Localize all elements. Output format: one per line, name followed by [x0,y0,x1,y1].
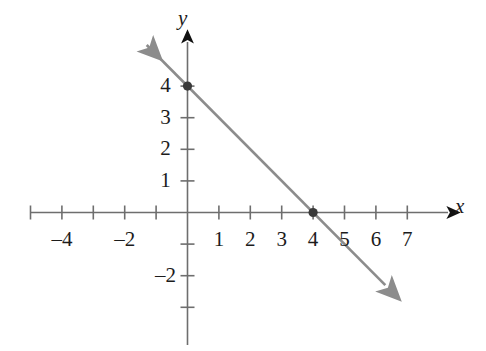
y-tick-label: 3 [160,107,171,128]
x-tick-label: 5 [339,229,350,250]
y-tick-label: 4 [160,75,171,96]
x-tick-label: –2 [114,229,135,250]
x-tick-label: 2 [245,229,256,250]
x-tick-label: 3 [276,229,287,250]
coordinate-plane-figure: –4–21234567 4321–2 x y [0,0,486,351]
y-tick-label: 1 [160,170,171,191]
plot-canvas [0,0,486,351]
point-marker [309,208,318,217]
x-tick-label: 7 [402,229,413,250]
point-marker [183,82,192,91]
x-tick-label: 4 [308,229,319,250]
y-tick-label: 2 [160,138,171,159]
y-tick-label: –2 [155,265,176,286]
x-axis-label: x [455,196,464,217]
y-axis-label: y [178,8,187,29]
x-tick-label: 1 [214,229,225,250]
x-tick-label: –4 [51,229,72,250]
x-tick-label: 6 [371,229,382,250]
